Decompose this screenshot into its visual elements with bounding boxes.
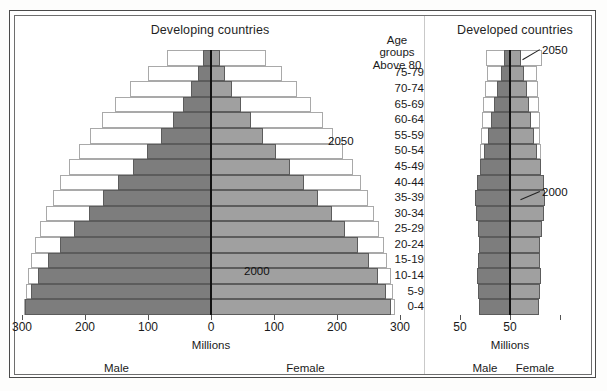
bar-2000-female-25-29	[211, 221, 345, 237]
bar-2000-female-40-44	[510, 175, 544, 191]
bar-2000-female-60-64	[211, 112, 251, 128]
bar-2000-male-10-14	[38, 268, 211, 284]
bar-2000-male-70-74	[191, 81, 211, 97]
bar-2000-male-45-49	[480, 159, 510, 175]
female-label: Female	[286, 362, 324, 374]
bar-2000-male-15-19	[48, 253, 211, 269]
bar-2000-female-50-54	[510, 144, 537, 160]
bar-2000-male-5-9	[31, 284, 211, 300]
age-groups-heading: Age groups	[368, 34, 426, 58]
bar-2000-female-30-34	[510, 206, 544, 222]
age-group-label-50-54: 50-54	[366, 144, 426, 156]
age-group-label-15-19: 15-19	[366, 253, 426, 265]
bar-2000-female-15-19	[510, 253, 540, 269]
bar-2000-female-50-54	[211, 144, 276, 160]
bar-2000-female-75-79	[211, 66, 225, 82]
plot-developed	[460, 50, 560, 315]
x-tick-label-300-6: 300	[390, 320, 410, 334]
bar-2000-female-Above 80	[510, 50, 521, 66]
bar-2000-male-20-24	[479, 237, 510, 253]
bar-2000-male-50-54	[147, 144, 211, 160]
bar-2000-female-55-59	[211, 128, 263, 144]
bar-2000-male-65-69	[183, 97, 211, 113]
age-group-label-45-49: 45-49	[366, 160, 426, 172]
bar-2000-male-0-4	[479, 299, 510, 315]
male-label: Male	[473, 362, 498, 374]
bar-2000-female-5-9	[211, 284, 386, 300]
bar-2000-female-30-34	[211, 206, 332, 222]
bar-2000-male-30-34	[89, 206, 211, 222]
panel-developed-title: Developed countries	[432, 23, 598, 37]
x-tick-label-50-1: 50	[503, 320, 516, 334]
plot-developing	[22, 50, 400, 315]
bar-2000-male-65-69	[494, 97, 510, 113]
x-tick-label-200-5: 200	[327, 320, 347, 334]
age-group-label-0-4: 0-4	[366, 300, 426, 312]
bar-2000-female-55-59	[510, 128, 534, 144]
bar-2000-female-45-49	[510, 159, 541, 175]
panel-developed-countries: Developed countries 5050MillionsMaleFema…	[430, 20, 596, 370]
population-pyramid-figure: Developing countries 3002001000100200300…	[0, 0, 607, 391]
x-tick-mark	[560, 315, 561, 320]
bar-2000-female-15-19	[211, 253, 369, 269]
bar-2000-male-40-44	[118, 175, 211, 191]
bar-2000-male-60-64	[491, 112, 510, 128]
age-group-label-20-24: 20-24	[366, 238, 426, 250]
age-group-label-40-44: 40-44	[366, 176, 426, 188]
bar-2000-male-0-4	[25, 299, 211, 315]
annotation-2050-developing: 2050	[328, 135, 354, 147]
bar-2000-female-65-69	[211, 97, 241, 113]
bar-2000-female-20-24	[510, 237, 540, 253]
bar-2000-male-15-19	[478, 253, 510, 269]
bar-2000-male-50-54	[484, 144, 510, 160]
center-axis-line	[210, 50, 212, 315]
bar-2000-female-10-14	[211, 268, 378, 284]
age-group-label-30-34: 30-34	[366, 207, 426, 219]
age-group-label-55-59: 55-59	[366, 129, 426, 141]
bar-2000-male-55-59	[488, 128, 510, 144]
bar-2000-female-70-74	[211, 81, 232, 97]
bar-2000-male-40-44	[477, 175, 510, 191]
bar-2000-female-0-4	[510, 299, 539, 315]
bar-2000-male-5-9	[478, 284, 510, 300]
age-group-label-25-29: 25-29	[366, 222, 426, 234]
annotation-2000-developed: 2000	[542, 186, 568, 198]
bar-2000-male-20-24	[60, 237, 211, 253]
axis-unit-label: Millions	[22, 339, 400, 351]
male-label: Male	[104, 362, 129, 374]
age-group-label-70-74: 70-74	[366, 82, 426, 94]
panel-developing-title: Developing countries	[10, 23, 410, 37]
female-label: Female	[516, 362, 554, 374]
bar-2000-female-35-39	[510, 190, 545, 206]
bar-2000-male-55-59	[161, 128, 211, 144]
bar-2000-female-10-14	[510, 268, 541, 284]
x-tick-label-100-2: 100	[138, 320, 158, 334]
bar-2000-male-30-34	[476, 206, 510, 222]
bar-2000-female-35-39	[211, 190, 318, 206]
x-tick-label-300-0: 300	[12, 320, 32, 334]
annotation-2050-developed: 2050	[542, 44, 568, 56]
age-group-label-60-64: 60-64	[366, 113, 426, 125]
bar-2000-male-75-79	[198, 66, 211, 82]
x-tick-label-0-3: 0	[208, 320, 215, 334]
age-group-label-10-14: 10-14	[366, 269, 426, 281]
age-group-axis: Age groups Above 80 75-7970-7465-6960-64…	[368, 34, 426, 71]
bar-2000-male-25-29	[478, 221, 510, 237]
bar-2000-female-0-4	[211, 299, 391, 315]
bar-2000-female-Above 80	[211, 50, 220, 66]
x-tick-label-50-0: 50	[453, 320, 466, 334]
age-group-label-65-69: 65-69	[366, 98, 426, 110]
age-group-label-75-79: 75-79	[366, 66, 426, 78]
bar-2000-female-25-29	[510, 221, 542, 237]
bar-2000-female-65-69	[510, 97, 529, 113]
axis-unit-label: Millions	[460, 339, 560, 351]
bar-2000-female-45-49	[211, 159, 290, 175]
bar-2000-female-20-24	[211, 237, 358, 253]
bar-2000-male-45-49	[133, 159, 211, 175]
annotation-2000-developing: 2000	[244, 265, 270, 277]
bar-2000-male-35-39	[103, 190, 211, 206]
x-tick-label-100-4: 100	[264, 320, 284, 334]
center-axis-line	[509, 50, 511, 315]
bar-2000-male-25-29	[74, 221, 211, 237]
bar-2000-female-70-74	[510, 81, 527, 97]
